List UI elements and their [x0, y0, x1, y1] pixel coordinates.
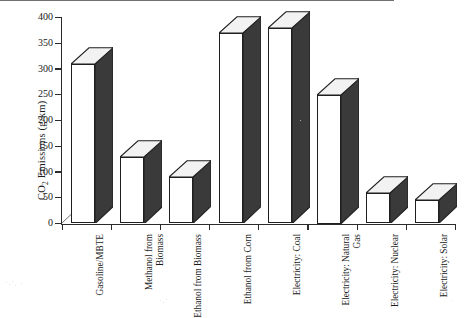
bar	[219, 16, 261, 224]
bar-top-face	[317, 78, 359, 97]
y-axis-tick-label: 400	[0, 12, 53, 22]
scan-speck	[9, 284, 10, 285]
x-axis-category-label-text: Ethanol from Corn	[243, 234, 254, 318]
bar-front-face	[415, 200, 439, 223]
x-axis-category-label: Electricity: Coal	[292, 234, 303, 318]
x-axis-category-label: Methanol from Biomass	[144, 234, 165, 318]
x-axis-category-label-text: Electricity: Natural Gas	[341, 234, 362, 318]
bar	[71, 47, 113, 224]
bar-front-face	[366, 193, 390, 224]
y-axis-tick	[55, 146, 62, 147]
plot-area: 050100150200250300350400 Gasoline/MBTEMe…	[0, 0, 473, 318]
x-axis-tick	[307, 224, 308, 230]
y-axis-tick-label-text: 50	[13, 192, 53, 202]
y-axis-tick-label: 100	[0, 167, 53, 177]
y-axis-tick-label-text: 0	[13, 218, 53, 228]
x-axis-category-label-text: Electricity: Coal	[292, 234, 303, 318]
y-axis-tick	[55, 94, 62, 95]
bar	[415, 183, 457, 223]
y-axis-tick-label: 200	[0, 115, 53, 125]
x-axis-category-label: Electricity: Solar	[439, 234, 450, 318]
scan-speck	[15, 285, 16, 286]
x-axis-category-label-text: Gasoline/MBTE	[95, 234, 106, 318]
bar	[169, 160, 211, 223]
bar-top-face	[169, 160, 211, 179]
y-axis-tick-label: 300	[0, 64, 53, 74]
y-axis-tick-label: 250	[0, 89, 53, 99]
y-axis-tick	[55, 17, 62, 18]
x-axis-tick	[406, 224, 407, 230]
y-axis-tick	[55, 43, 62, 44]
bar-front-face	[317, 95, 341, 224]
x-axis-tick	[455, 224, 456, 230]
bar-top-face	[71, 47, 113, 66]
scan-speck	[21, 283, 22, 284]
bar-top-face	[268, 11, 310, 30]
scan-speck	[6, 282, 7, 283]
bar-top-face	[366, 176, 408, 195]
bar-side-face	[292, 11, 310, 224]
x-axis-category-label: Gasoline/MBTE	[95, 234, 106, 318]
x-axis-category-label-text: Ethanol from Biomass	[193, 234, 204, 318]
x-axis-category-label: Ethanol from Biomass	[193, 234, 204, 318]
x-axis-tick	[258, 224, 259, 230]
y-axis-tick-label: 0	[0, 218, 53, 228]
y-axis-tick-label-text: 300	[13, 64, 53, 74]
y-axis-tick-label: 50	[0, 192, 53, 202]
bar-top-face	[120, 140, 162, 159]
y-axis-tick-label: 150	[0, 141, 53, 151]
x-axis-tick	[111, 224, 112, 230]
y-axis-tick-label-text: 150	[13, 141, 53, 151]
bar	[268, 11, 310, 224]
scan-speck	[160, 300, 161, 301]
x-axis-tick	[62, 224, 63, 230]
scan-speck	[12, 281, 13, 282]
scan-speck	[166, 299, 167, 300]
scan-speck	[452, 300, 453, 301]
x-axis-category-label-text: Methanol from Biomass	[144, 234, 165, 318]
x-axis-category-label: Electricity: Nuclear	[390, 234, 401, 318]
x-axis-tick	[160, 224, 161, 230]
y-axis-tick-label-text: 200	[13, 115, 53, 125]
scan-speck	[300, 120, 301, 121]
x-axis-category-label-text: Electricity: Solar	[439, 234, 450, 318]
bar	[120, 140, 162, 224]
bar-front-face	[169, 177, 193, 223]
y-axis-tick	[55, 197, 62, 198]
y-axis-tick	[55, 171, 62, 172]
bar-side-face	[95, 47, 113, 224]
x-axis-tick	[357, 224, 358, 230]
bar-front-face	[219, 33, 243, 224]
bar-side-face	[341, 78, 359, 224]
bar-front-face	[268, 28, 292, 224]
x-axis-category-label: Electricity: Natural Gas	[341, 234, 362, 318]
y-axis-tick	[55, 68, 62, 69]
floor-back-edge	[0, 0, 394, 1]
y-axis-tick-label-text: 400	[13, 12, 53, 22]
y-axis-tick	[55, 120, 62, 121]
scan-speck	[163, 302, 164, 303]
y-axis-tick-label: 350	[0, 38, 53, 48]
bar-front-face	[120, 157, 144, 224]
bar-top-face	[415, 183, 457, 202]
x-axis-category-label: Ethanol from Corn	[243, 234, 254, 318]
bar	[317, 78, 359, 224]
bar-front-face	[71, 64, 95, 224]
co2-emissions-bar-chart: CO2 Emissions (g/km) 0501001502002503003…	[0, 0, 473, 318]
bar-top-face	[219, 16, 261, 35]
y-axis-tick-label-text: 250	[13, 89, 53, 99]
y-axis-tick-label-text: 350	[13, 38, 53, 48]
x-axis-category-label-text: Electricity: Nuclear	[390, 234, 401, 318]
y-axis-tick-label-text: 100	[13, 167, 53, 177]
x-axis-tick	[209, 224, 210, 230]
bar	[366, 176, 408, 224]
bar-side-face	[243, 16, 261, 224]
